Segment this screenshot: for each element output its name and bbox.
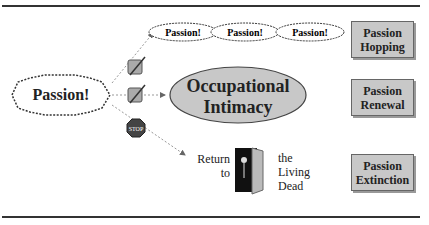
outcome-passion-hopping: PassionHopping: [351, 21, 414, 58]
top-passion-chain: Passion! Passion! Passion!: [149, 23, 344, 41]
stop-sign-icon: STOP: [127, 119, 145, 137]
occupational-intimacy-ellipse: Occupational Intimacy: [170, 67, 306, 123]
checkbox-icon: [128, 57, 145, 75]
svg-text:Passion!: Passion!: [292, 27, 328, 38]
outcome-passion-renewal: PassionRenewal: [351, 79, 414, 116]
start-passion-burst: Passion!: [12, 75, 110, 115]
svg-text:Occupational: Occupational: [186, 76, 289, 96]
return-to-label: Return to: [192, 152, 230, 180]
checkbox-icon: [128, 85, 145, 103]
living-dead-label: the Living Dead: [278, 151, 310, 193]
svg-text:Passion!: Passion!: [33, 86, 90, 103]
door-skeleton-icon: [235, 148, 263, 194]
svg-text:Intimacy: Intimacy: [204, 97, 273, 117]
svg-text:STOP: STOP: [129, 126, 144, 132]
svg-text:Passion!: Passion!: [227, 27, 263, 38]
outcome-passion-extinction: PassionExtinction: [351, 154, 414, 191]
svg-text:Passion!: Passion!: [165, 27, 201, 38]
